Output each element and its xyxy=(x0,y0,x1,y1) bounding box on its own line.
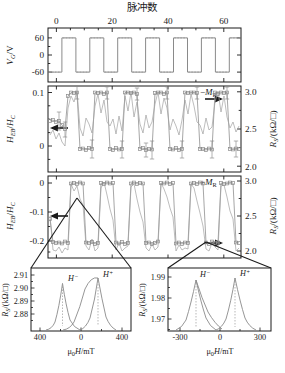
ir-pk0-s: − xyxy=(206,269,210,276)
pnm-yl-s1: EB xyxy=(9,128,16,137)
svg-text:HEB/HC: HEB/HC xyxy=(5,201,16,231)
panel-positive-mr-ytick-neg0p2: -0.2 xyxy=(29,236,44,246)
panel-positive-mr-right-yticks xyxy=(237,181,241,251)
panel-negative-mr: 0.1 0 3.0 2.5 2.0 HEB/HC RS/(kΩ xyxy=(5,86,279,172)
inset-right-xtick-0: 0 xyxy=(218,333,222,342)
panel-positive-mr-ylabel-right: RS/(kΩ/□) xyxy=(268,198,279,236)
panel-positive-mr-ytick-neg0p1: -0.1 xyxy=(29,207,44,217)
inset-left-xtick-0: 0 xyxy=(79,333,83,342)
inset-right-xtick-neg300: -300 xyxy=(172,333,187,342)
panel-vg-xtick-3: 60 xyxy=(219,16,229,26)
panel-negative-mr-ytick-0p1: 0.1 xyxy=(33,88,45,98)
inset-right-xtick-300: 300 xyxy=(254,333,266,342)
ppm-ann-sub: R xyxy=(213,181,218,188)
panel-vg-ylabel: VG/V xyxy=(5,45,16,65)
inset-right-xlabel: μ0H/mT xyxy=(206,347,233,357)
panel-vg-yticks xyxy=(48,38,241,72)
inset-right-ytick-1p99: 1.99 xyxy=(151,273,165,282)
panel-vg: 0 20 40 60 60 0 -60 VG/V xyxy=(5,16,241,82)
ir-xl-u: /mT xyxy=(220,347,234,356)
panel-vg-xtick-2: 40 xyxy=(163,16,173,26)
ppm-yl-s1: EB xyxy=(9,215,16,224)
panel-vg-ytick-0: 0 xyxy=(39,50,44,60)
inset-left-ytick-2p91: 2.91 xyxy=(14,271,28,280)
il-pk1-s: + xyxy=(109,269,113,276)
panel-positive-mr-rtick-3p0: 3.0 xyxy=(245,176,257,186)
panel-vg-waveform xyxy=(48,38,241,72)
inset-left-xlabel: μ0H/mT xyxy=(67,347,94,357)
figure-title: 脉冲数 xyxy=(127,1,158,13)
il-yl-u: /(kΩ/□) xyxy=(1,283,10,308)
panel-positive-mr-ylabel-left: HEB/HC xyxy=(5,201,16,231)
ir-yl-u: /(kΩ/□) xyxy=(138,283,147,308)
panel-vg-frame xyxy=(48,28,241,82)
pnm-yr-u: /(kΩ/□) xyxy=(268,111,278,139)
inset-right-ytick-1p97: 1.97 xyxy=(151,315,165,324)
panel-positive-mr-annotation: +MR xyxy=(200,177,218,188)
ir-pk1-s: + xyxy=(246,268,250,275)
panel-negative-mr-ylabel-left: HEB/HC xyxy=(5,114,16,144)
ppm-yl-s2: C xyxy=(9,201,16,206)
inset-right-frame xyxy=(168,268,271,331)
inset-right-ylabel: RS/(kΩ/□) xyxy=(138,283,148,318)
pnm-yl-s2: C xyxy=(9,114,16,119)
svg-text:RS/(kΩ/□): RS/(kΩ/□) xyxy=(268,111,279,149)
figure-root: 脉冲数 0 20 40 60 xyxy=(0,0,285,373)
panel-negative-mr-rtick-2p5: 2.5 xyxy=(245,124,257,134)
svg-text:RS/(kΩ/□): RS/(kΩ/□) xyxy=(138,283,148,318)
panel-vg-xtick-1: 20 xyxy=(108,16,118,26)
panel-vg-xtick-0: 0 xyxy=(54,16,59,26)
figure-svg: 脉冲数 0 20 40 60 xyxy=(0,0,285,373)
inset-left-ylabel: RS/(kΩ/□) xyxy=(1,283,11,318)
il-xl-u: /mT xyxy=(81,347,95,356)
inset-left-xtick-neg400: 400 xyxy=(34,333,46,342)
inset-left-xtick-400: 400 xyxy=(116,333,128,342)
panel-vg-xticks xyxy=(56,28,223,82)
inset-left: 2.91 2.90 2.89 2.88 400 0 400 RS/(kΩ/□) … xyxy=(1,268,131,357)
panel-vg-ytick-neg60: -60 xyxy=(32,67,45,77)
panel-positive-mr-ytick-0: 0 xyxy=(39,178,44,188)
panel-negative-mr-rtick-2p0: 2.0 xyxy=(245,162,257,172)
inset-right: 1.99 1.98 1.97 -300 0 300 RS/(kΩ/□) μ0H/… xyxy=(138,268,271,357)
panel-negative-mr-rtick-3p0: 3.0 xyxy=(245,87,257,97)
inset-left-frame xyxy=(31,268,131,331)
panel-positive-mr-xticks xyxy=(56,176,223,258)
panel-positive-mr-rtick-2p0: 2.0 xyxy=(245,246,257,256)
il-pk0-s: − xyxy=(74,273,78,280)
panel-negative-mr-line-left xyxy=(50,93,239,151)
inset-left-ytick-2p89: 2.89 xyxy=(14,297,28,306)
svg-text:RS/(kΩ/□): RS/(kΩ/□) xyxy=(1,283,11,318)
panel-positive-mr-rtick-2p5: 2.5 xyxy=(245,211,257,221)
panel-vg-plateau-markers xyxy=(49,38,240,72)
panel-vg-ytick-60: 60 xyxy=(35,33,45,43)
svg-text:HEB/HC: HEB/HC xyxy=(5,114,16,144)
svg-text:VG/V: VG/V xyxy=(5,45,16,65)
panel-negative-mr-left-yticks xyxy=(48,93,52,160)
ppm-yr-u: /(kΩ/□) xyxy=(268,198,278,226)
panel-negative-mr-ylabel-right: RS/(kΩ/□) xyxy=(268,111,279,149)
panel-negative-mr-ytick-0: 0 xyxy=(39,141,44,151)
inset-left-ytick-2p88: 2.88 xyxy=(14,310,28,319)
inset-right-ytick-1p98: 1.98 xyxy=(151,294,165,303)
svg-text:RS/(kΩ/□): RS/(kΩ/□) xyxy=(268,198,279,236)
inset-left-ytick-2p90: 2.90 xyxy=(14,284,28,293)
panel-vg-ylabel-unit: /V xyxy=(5,45,15,55)
